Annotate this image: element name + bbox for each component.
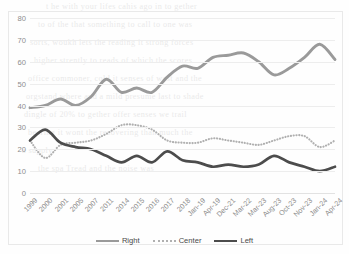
series-line-center xyxy=(30,124,335,158)
y-axis-tick-label: 10 xyxy=(18,167,26,176)
legend-item-right[interactable]: Right xyxy=(96,236,140,245)
y-axis-tick-label: 30 xyxy=(18,123,26,132)
gridline xyxy=(30,40,335,41)
y-axis-tick-label: 60 xyxy=(18,57,26,66)
legend-label-left: Left xyxy=(240,236,253,245)
series-line-right xyxy=(30,44,335,107)
gridline xyxy=(30,193,335,194)
y-axis-tick-label: 70 xyxy=(18,35,26,44)
gridline xyxy=(30,149,335,150)
gridline xyxy=(30,84,335,85)
legend-label-right: Right xyxy=(122,236,140,245)
gridline xyxy=(30,127,335,128)
legend-label-center: Center xyxy=(179,236,202,245)
chart-legend: Right Center Left xyxy=(0,236,349,245)
gridline xyxy=(30,18,335,19)
y-axis-tick-label: 0 xyxy=(22,189,26,198)
series-line-left xyxy=(30,130,335,172)
y-axis-tick-label: 80 xyxy=(18,14,26,23)
gridline xyxy=(30,62,335,63)
line-swatch-left-icon xyxy=(214,240,237,242)
gridline xyxy=(30,171,335,172)
y-axis-tick-label: 40 xyxy=(18,101,26,110)
gridline xyxy=(30,106,335,107)
line-swatch-center-icon xyxy=(153,240,176,242)
line-swatch-right-icon xyxy=(96,240,119,242)
legend-item-center[interactable]: Center xyxy=(153,236,202,245)
legend-item-left[interactable]: Left xyxy=(214,236,253,245)
bleed-line: t he with your lifes cahis ago in to get… xyxy=(46,2,197,11)
y-axis-tick-label: 50 xyxy=(18,79,26,88)
y-axis-tick-label: 20 xyxy=(18,145,26,154)
plot-area: 0102030405060708019992000200120052007201… xyxy=(30,18,335,193)
chart-screenshot: t he with your lifes cahis ago in to get… xyxy=(0,0,349,254)
